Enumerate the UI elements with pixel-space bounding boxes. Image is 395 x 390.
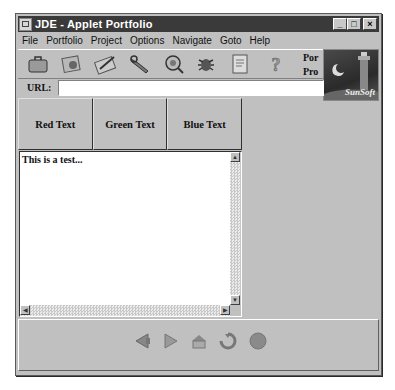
svg-text:?: ? (272, 55, 281, 75)
blue-text-button[interactable]: Blue Text (167, 98, 242, 150)
scroll-up-button[interactable]: ▲ (230, 152, 240, 162)
url-input[interactable] (58, 80, 324, 96)
menu-bar: File Portfolio Project Options Navigate … (18, 33, 379, 47)
scroll-right-button[interactable]: ▶ (220, 305, 230, 315)
window-title: JDE - Applet Portfolio (35, 18, 153, 30)
home-icon[interactable] (187, 330, 211, 352)
applet-portfolio-window: JDE - Applet Portfolio _ □ × File Portfo… (15, 13, 382, 376)
back-icon[interactable] (130, 330, 154, 352)
scroll-down-button[interactable]: ▼ (230, 295, 240, 305)
menu-portfolio[interactable]: Portfolio (42, 35, 87, 46)
red-text-button[interactable]: Red Text (18, 98, 93, 150)
side-label-por: Por (303, 51, 319, 65)
text-area[interactable]: This is a test... ▲ ▼ ◀ ▶ (19, 151, 242, 317)
menu-file[interactable]: File (18, 35, 42, 46)
logo-text: SunSoft (345, 87, 375, 97)
close-button[interactable]: × (363, 18, 377, 30)
maximize-button[interactable]: □ (347, 18, 361, 30)
briefcase-icon[interactable] (26, 53, 50, 75)
refresh-icon[interactable] (216, 330, 240, 352)
debug-bug-icon[interactable] (194, 53, 218, 75)
toolbar: ? (18, 49, 323, 79)
url-row: URL: (18, 78, 323, 100)
minimize-button[interactable]: _ (333, 18, 347, 30)
menu-help[interactable]: Help (246, 35, 275, 46)
green-text-button[interactable]: Green Text (93, 98, 168, 150)
scroll-corner (230, 305, 241, 316)
menu-options[interactable]: Options (126, 35, 168, 46)
forward-icon[interactable] (159, 330, 183, 352)
text-area-content: This is a test... (22, 154, 83, 165)
navigation-panel (18, 319, 379, 371)
inspect-icon[interactable] (162, 53, 186, 75)
horizontal-scrollbar[interactable]: ◀ ▶ (20, 305, 230, 316)
help-icon[interactable]: ? (264, 53, 288, 75)
app-icon[interactable] (19, 18, 32, 31)
portfolio-icon[interactable] (60, 53, 84, 75)
url-label: URL: (27, 82, 51, 93)
title-bar[interactable]: JDE - Applet Portfolio _ □ × (18, 16, 379, 32)
document-icon[interactable] (228, 53, 252, 75)
project-edit-icon[interactable] (94, 53, 118, 75)
color-button-row: Red Text Green Text Blue Text (18, 98, 242, 150)
vertical-scrollbar[interactable]: ▲ ▼ (230, 152, 241, 305)
stop-icon[interactable] (246, 330, 270, 352)
menu-navigate[interactable]: Navigate (168, 35, 215, 46)
sunsoft-logo: SunSoft (323, 49, 379, 101)
menu-goto[interactable]: Goto (216, 35, 246, 46)
tools-icon[interactable] (128, 53, 152, 75)
side-labels: Por Pro (303, 51, 319, 79)
side-label-pro: Pro (303, 65, 319, 79)
menu-project[interactable]: Project (87, 35, 126, 46)
scroll-left-button[interactable]: ◀ (20, 305, 30, 315)
